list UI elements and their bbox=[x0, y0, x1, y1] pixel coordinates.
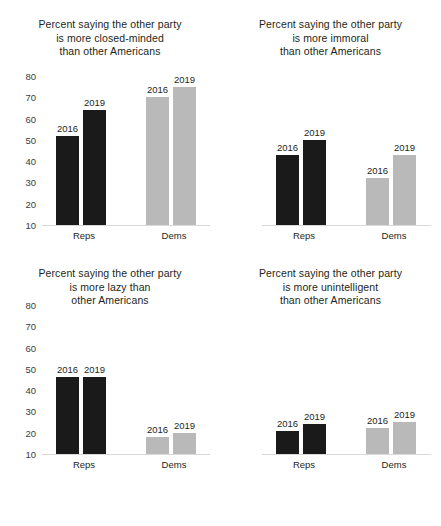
bar: 2019 bbox=[173, 87, 196, 225]
bar-fill bbox=[393, 155, 416, 225]
bar: 2016 bbox=[366, 428, 389, 454]
y-axis-labels: 80 70 60 50 40 30 20 10 bbox=[220, 76, 262, 225]
y-tick: 60 bbox=[25, 342, 36, 353]
bar-fill bbox=[366, 178, 389, 225]
y-tick: 80 bbox=[25, 71, 36, 82]
bar-label: 2019 bbox=[304, 127, 325, 138]
bar: 2019 bbox=[83, 377, 106, 454]
bar-label: 2019 bbox=[174, 74, 195, 85]
y-tick: 20 bbox=[25, 427, 36, 438]
bars-layer: 2016 2019 2016 2019 bbox=[262, 76, 431, 225]
bar-group-reps: 2016 2019 bbox=[276, 76, 332, 225]
bar-label: 2019 bbox=[394, 142, 415, 153]
y-tick: 10 bbox=[25, 449, 36, 460]
category-label-dems: Dems bbox=[146, 459, 202, 470]
axis-baseline bbox=[262, 225, 431, 226]
plot-area: 2016 2019 2016 2019 bbox=[42, 305, 210, 454]
y-axis-labels: 80 70 60 50 40 30 20 10 bbox=[220, 305, 262, 454]
y-tick: 50 bbox=[25, 363, 36, 374]
bar-fill bbox=[83, 377, 106, 454]
y-tick: 30 bbox=[25, 406, 36, 417]
bar-group-dems: 2016 2019 bbox=[366, 76, 422, 225]
bar-fill bbox=[56, 136, 79, 225]
bar: 2019 bbox=[303, 140, 326, 225]
bar: 2019 bbox=[393, 155, 416, 225]
y-tick: 70 bbox=[25, 92, 36, 103]
y-tick: 50 bbox=[25, 134, 36, 145]
axis-baseline bbox=[42, 225, 210, 226]
bar: 2019 bbox=[393, 422, 416, 454]
bar-label: 2019 bbox=[84, 97, 105, 108]
y-tick: 10 bbox=[25, 220, 36, 231]
bar-label: 2019 bbox=[174, 420, 195, 431]
bar-label: 2016 bbox=[367, 415, 388, 426]
bars-layer: 2016 2019 2016 2019 bbox=[42, 305, 210, 454]
bar-group-dems: 2016 2019 bbox=[146, 305, 202, 454]
category-label-reps: Reps bbox=[276, 459, 332, 470]
panel-lazy: Percent saying the other party is more l… bbox=[0, 263, 220, 526]
panel-closed-minded: Percent saying the other party is more c… bbox=[0, 0, 220, 263]
panel-title: Percent saying the other party is more c… bbox=[0, 18, 220, 59]
bar-group-dems: 2016 2019 bbox=[366, 305, 422, 454]
panel-immoral: Percent saying the other party is more i… bbox=[220, 0, 441, 263]
bar-label: 2016 bbox=[57, 364, 78, 375]
bar: 2016 bbox=[146, 437, 169, 454]
category-label-dems: Dems bbox=[366, 230, 422, 241]
bar-fill bbox=[366, 428, 389, 454]
y-axis-labels: 80 70 60 50 40 30 20 10 bbox=[0, 305, 42, 454]
bar-fill bbox=[173, 87, 196, 225]
bar-label: 2019 bbox=[394, 409, 415, 420]
bar-label: 2016 bbox=[277, 418, 298, 429]
chart-grid: Percent saying the other party is more c… bbox=[0, 0, 441, 526]
y-tick: 20 bbox=[25, 198, 36, 209]
y-tick: 40 bbox=[25, 156, 36, 167]
bar-label: 2016 bbox=[57, 123, 78, 134]
bar-group-reps: 2016 2019 bbox=[56, 76, 112, 225]
bar-fill bbox=[276, 431, 299, 454]
y-tick: 70 bbox=[25, 321, 36, 332]
category-label-reps: Reps bbox=[56, 459, 112, 470]
panel-title: Percent saying the other party is more u… bbox=[220, 267, 441, 308]
bar: 2019 bbox=[173, 433, 196, 454]
bar-group-reps: 2016 2019 bbox=[56, 305, 112, 454]
bar: 2016 bbox=[56, 136, 79, 225]
bars-layer: 2016 2019 2016 2019 bbox=[42, 76, 210, 225]
y-tick: 60 bbox=[25, 113, 36, 124]
bar-fill bbox=[146, 437, 169, 454]
category-label-reps: Reps bbox=[276, 230, 332, 241]
category-label-reps: Reps bbox=[56, 230, 112, 241]
plot-area: 2016 2019 2016 2019 bbox=[262, 76, 431, 225]
axis-baseline bbox=[262, 454, 431, 455]
bar-label: 2016 bbox=[277, 142, 298, 153]
bars-layer: 2016 2019 2016 2019 bbox=[262, 305, 431, 454]
y-axis-labels: 80 70 60 50 40 30 20 10 bbox=[0, 76, 42, 225]
bar-fill bbox=[303, 424, 326, 454]
bar-fill bbox=[83, 110, 106, 225]
y-tick: 40 bbox=[25, 385, 36, 396]
bar: 2019 bbox=[303, 424, 326, 454]
plot-area: 2016 2019 2016 2019 bbox=[262, 305, 431, 454]
bar: 2016 bbox=[56, 377, 79, 454]
category-label-dems: Dems bbox=[146, 230, 202, 241]
bar-label: 2019 bbox=[304, 411, 325, 422]
bar-fill bbox=[393, 422, 416, 454]
bar: 2019 bbox=[83, 110, 106, 225]
y-tick: 80 bbox=[25, 300, 36, 311]
bar-fill bbox=[146, 97, 169, 225]
category-label-dems: Dems bbox=[366, 459, 422, 470]
bar-label: 2016 bbox=[147, 424, 168, 435]
panel-unintelligent: Percent saying the other party is more u… bbox=[220, 263, 441, 526]
bar-label: 2016 bbox=[367, 165, 388, 176]
bar: 2016 bbox=[276, 431, 299, 454]
bar-fill bbox=[303, 140, 326, 225]
bar: 2016 bbox=[366, 178, 389, 225]
bar: 2016 bbox=[146, 97, 169, 225]
bar-label: 2016 bbox=[147, 84, 168, 95]
bar-fill bbox=[173, 433, 196, 454]
plot-area: 2016 2019 2016 2019 bbox=[42, 76, 210, 225]
y-tick: 30 bbox=[25, 177, 36, 188]
bar-fill bbox=[56, 377, 79, 454]
panel-title: Percent saying the other party is more i… bbox=[220, 18, 441, 59]
bar-fill bbox=[276, 155, 299, 225]
bar: 2016 bbox=[276, 155, 299, 225]
